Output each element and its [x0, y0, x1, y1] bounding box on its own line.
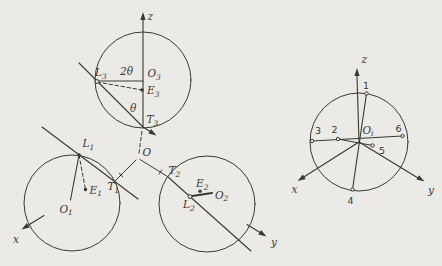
joint-2-marker [336, 137, 339, 140]
inset-z-axis-label: z [361, 53, 368, 65]
x-axis-label: x [13, 233, 19, 245]
z-axis-label: z [147, 10, 154, 22]
joint-5-marker [371, 144, 374, 147]
joint-5-label: 5 [379, 145, 385, 156]
e1-dot [84, 188, 87, 191]
e3-dot [140, 88, 143, 91]
joint-3-marker [310, 139, 313, 142]
joint-6-label: 6 [395, 123, 401, 134]
figure-canvas: z x y O L3 2θ O3 E3 θ T3 [0, 0, 442, 266]
joint-1-label: 1 [363, 80, 369, 91]
l3-marker [95, 80, 99, 84]
joint-4-label: 4 [347, 195, 353, 206]
figure-page: z x y O L3 2θ O3 E3 θ T3 [0, 0, 442, 266]
l1-marker [77, 153, 81, 157]
joint-1-marker [365, 92, 368, 95]
origin-label: O [143, 146, 152, 158]
joint-6-marker [401, 134, 404, 137]
inset-x-axis-label: x [292, 183, 298, 195]
y-axis-label: y [270, 236, 278, 248]
joint-4-marker [351, 188, 354, 191]
joint-2-label: 2 [331, 124, 337, 135]
inset-y-axis-label: y [427, 184, 435, 196]
label-theta: θ [130, 102, 137, 114]
label-2theta: 2θ [119, 65, 134, 77]
e2-dot [198, 190, 201, 193]
joint-3-label: 3 [315, 125, 321, 136]
paper-background [0, 0, 442, 266]
